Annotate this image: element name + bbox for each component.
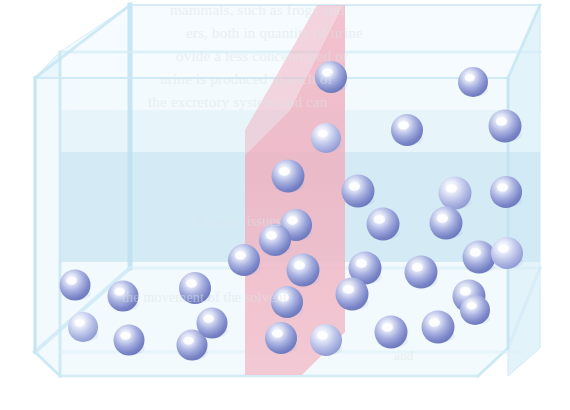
particle-body [439, 177, 472, 210]
particle-highlight [382, 323, 393, 332]
particle-body [375, 316, 408, 349]
particle-body [265, 322, 297, 354]
particle-highlight [465, 74, 475, 82]
particle-highlight [322, 68, 333, 76]
solute-particle [342, 175, 375, 208]
particle-body [311, 123, 341, 153]
particle-highlight [317, 331, 328, 339]
particle-body [179, 272, 211, 304]
particle-highlight [498, 244, 509, 252]
particle-body [108, 281, 139, 312]
particle-highlight [343, 285, 354, 294]
particle-body [342, 175, 375, 208]
particle-highlight [412, 263, 423, 272]
solute-particle [405, 256, 438, 289]
particle-body [228, 244, 260, 276]
particle-highlight [496, 117, 507, 126]
solute-particle [375, 316, 408, 349]
particle-highlight [203, 315, 214, 323]
particle-body [60, 270, 91, 301]
particle-body [259, 224, 291, 256]
particle-body [68, 312, 98, 342]
solute-particle [336, 278, 369, 311]
particle-body [114, 325, 145, 356]
particle-highlight [446, 184, 457, 193]
solute-particle [271, 286, 303, 318]
particle-body [271, 286, 303, 318]
particle-highlight [287, 216, 298, 224]
particle-highlight [183, 337, 194, 345]
particle-body [315, 61, 347, 93]
solute-particle [490, 176, 522, 208]
solute-particle [265, 322, 297, 354]
particle-highlight [349, 182, 360, 191]
solute-particle [287, 254, 320, 287]
particle-body [367, 208, 400, 241]
cube-illustration [0, 0, 570, 410]
particle-body [463, 241, 496, 274]
particle-highlight [279, 167, 290, 176]
particle-highlight [398, 121, 409, 129]
particle-highlight [120, 332, 131, 340]
particle-body [491, 237, 523, 269]
particle-highlight [266, 231, 277, 239]
particle-highlight [66, 277, 77, 285]
particle-highlight [278, 293, 289, 301]
particle-highlight [460, 287, 471, 296]
particle-body [287, 254, 320, 287]
osmosis-figure: mammals, such as frogs anders, both in q… [0, 0, 570, 410]
particle-body [336, 278, 369, 311]
particle-body [490, 176, 522, 208]
particle-highlight [497, 183, 508, 191]
solute-particle [439, 177, 472, 210]
particle-highlight [186, 279, 197, 287]
particle-highlight [294, 261, 305, 270]
solute-particle [422, 311, 455, 344]
particle-highlight [114, 288, 125, 296]
solute-particle [310, 324, 342, 356]
solute-particle [391, 114, 423, 146]
particle-body [430, 207, 463, 240]
solute-particle [430, 207, 463, 240]
particle-body [460, 295, 490, 325]
particle-body [405, 256, 438, 289]
particle-body [489, 110, 522, 143]
particle-body [458, 67, 488, 97]
particle-body [272, 160, 305, 193]
particle-body [422, 311, 455, 344]
particle-highlight [356, 259, 367, 268]
particle-highlight [318, 130, 328, 138]
particle-highlight [470, 248, 481, 257]
solute-particle [179, 272, 211, 304]
solute-particle [463, 241, 496, 274]
particle-highlight [235, 251, 246, 259]
solute-particle [315, 61, 347, 93]
solute-particle [228, 244, 260, 276]
particle-highlight [75, 319, 85, 327]
particle-highlight [272, 329, 283, 337]
particle-highlight [374, 215, 385, 224]
particle-highlight [429, 318, 440, 327]
solute-particle [272, 160, 305, 193]
particle-highlight [467, 302, 477, 310]
solute-particle [367, 208, 400, 241]
solute-particle [489, 110, 522, 143]
solute-particle [259, 224, 291, 256]
particle-body [391, 114, 423, 146]
particle-body [310, 324, 342, 356]
solute-particle [491, 237, 523, 269]
particle-body [197, 308, 228, 339]
particle-highlight [437, 214, 448, 223]
